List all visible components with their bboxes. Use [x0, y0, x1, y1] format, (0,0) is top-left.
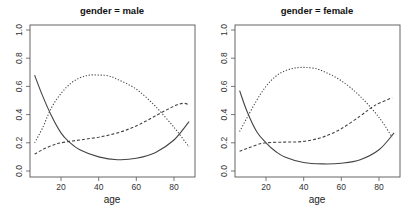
- x-tick-label: 40: [94, 182, 104, 192]
- y-tick-label: 0.2: [14, 137, 24, 149]
- curves-male: [35, 75, 190, 160]
- plot-frame-female: [235, 25, 400, 177]
- y-tick-label: 0.0: [14, 165, 24, 177]
- series-line-dotted: [240, 67, 393, 137]
- x-tick-label: 40: [299, 182, 309, 192]
- plot-frame-male: [30, 25, 195, 177]
- panel-title-female: gender = female: [281, 5, 354, 16]
- y-tick-label: 0.2: [219, 137, 229, 149]
- y-tick-label: 0.8: [219, 52, 229, 64]
- y-tick-label: 0.0: [219, 165, 229, 177]
- x-tick-label: 20: [56, 182, 66, 192]
- y-tick-label: 0.4: [219, 108, 229, 120]
- x-axis-male: 20 40 60 80 age: [56, 177, 179, 205]
- y-tick-label: 1.0: [14, 24, 24, 36]
- series-line-solid: [240, 91, 395, 164]
- y-tick-label: 0.6: [219, 80, 229, 92]
- y-tick-label: 0.8: [14, 52, 24, 64]
- x-axis-label: age: [309, 194, 326, 205]
- curves-female: [240, 67, 395, 164]
- x-tick-label: 80: [169, 182, 179, 192]
- panel-title-male: gender = male: [80, 5, 144, 16]
- series-line-dotted: [35, 75, 190, 147]
- x-tick-label: 60: [337, 182, 347, 192]
- y-tick-label: 0.6: [14, 80, 24, 92]
- panel-male: gender = male 0.0 0.2 0.4 0.6 0.8 1.0 20…: [14, 5, 195, 205]
- x-axis-female: 20 40 60 80 age: [261, 177, 384, 205]
- series-line-solid: [35, 75, 190, 160]
- x-axis-label: age: [104, 194, 121, 205]
- chart-canvas: gender = male 0.0 0.2 0.4 0.6 0.8 1.0 20…: [0, 0, 413, 210]
- y-axis-female: 0.0 0.2 0.4 0.6 0.8 1.0: [219, 24, 235, 177]
- y-tick-label: 0.4: [14, 108, 24, 120]
- x-tick-label: 80: [374, 182, 384, 192]
- x-tick-label: 20: [261, 182, 271, 192]
- x-tick-label: 60: [132, 182, 142, 192]
- y-axis-male: 0.0 0.2 0.4 0.6 0.8 1.0: [14, 24, 30, 177]
- panel-female: gender = female 0.0 0.2 0.4 0.6 0.8 1.0 …: [219, 5, 400, 205]
- y-tick-label: 1.0: [219, 24, 229, 36]
